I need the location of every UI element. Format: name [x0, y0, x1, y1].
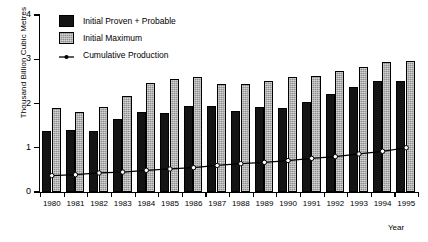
- x-tick: [135, 192, 136, 197]
- x-tick: [371, 192, 372, 197]
- x-tick-label: 1988: [228, 199, 254, 208]
- chart-figure: Thousand Billion Cubic Metres Year 01234…: [0, 0, 428, 242]
- y-axis-title: Thousand Billion Cubic Metres: [19, 0, 28, 138]
- swatch-dark-icon: [59, 15, 74, 27]
- y-tick: [34, 147, 39, 148]
- x-tick-label: 1985: [157, 199, 183, 208]
- x-tick: [394, 192, 395, 197]
- line-data-point: [120, 170, 124, 174]
- x-tick: [111, 192, 112, 197]
- x-axis-title: Year: [388, 223, 404, 232]
- line-data-point: [286, 158, 290, 162]
- legend-label: Initial Proven + Probable: [83, 16, 176, 26]
- y-tick: [34, 59, 39, 60]
- x-tick-label: 1990: [275, 199, 301, 208]
- y-tick-label: 4: [17, 9, 31, 19]
- x-tick-label: 1994: [370, 199, 396, 208]
- line-data-point: [309, 156, 313, 160]
- x-tick-label: 1982: [86, 199, 112, 208]
- line-data-point: [50, 173, 54, 177]
- line-data-point: [239, 161, 243, 165]
- x-tick: [253, 192, 254, 197]
- line-data-point: [144, 168, 148, 172]
- x-tick-label: 1986: [181, 199, 207, 208]
- x-tick: [229, 192, 230, 197]
- line-data-point: [215, 163, 219, 167]
- x-tick: [158, 192, 159, 197]
- line-data-point: [73, 173, 77, 177]
- swatch-hatched-icon: [59, 32, 74, 44]
- line-data-point: [380, 149, 384, 153]
- x-tick-label: 1992: [322, 199, 348, 208]
- x-tick: [40, 192, 41, 197]
- x-tick: [300, 192, 301, 197]
- x-tick-label: 1980: [39, 199, 65, 208]
- legend-label: Cumulative Production: [83, 50, 169, 60]
- line-data-point: [404, 146, 408, 150]
- line-data-point: [262, 160, 266, 164]
- x-tick: [347, 192, 348, 197]
- line-data-point: [191, 165, 195, 169]
- legend-item-initial-proven-probable: Initial Proven + Probable: [59, 12, 176, 29]
- x-tick: [418, 192, 419, 197]
- y-tick-label: 1: [17, 142, 31, 152]
- x-tick-label: 1981: [62, 199, 88, 208]
- legend-item-initial-maximum: Initial Maximum: [59, 29, 176, 46]
- x-tick-label: 1984: [133, 199, 159, 208]
- x-tick-label: 1993: [346, 199, 372, 208]
- y-tick-label: 0: [17, 186, 31, 196]
- line-data-point: [333, 154, 337, 158]
- line-data-point: [97, 171, 101, 175]
- y-tick-label: 3: [17, 53, 31, 63]
- y-tick: [34, 14, 39, 15]
- y-tick: [34, 191, 39, 192]
- line-data-point: [357, 152, 361, 156]
- x-tick: [324, 192, 325, 197]
- legend-item-cumulative-production: Cumulative Production: [59, 46, 176, 63]
- chart-legend: Initial Proven + Probable Initial Maximu…: [59, 12, 176, 63]
- x-tick: [276, 192, 277, 197]
- x-tick-label: 1989: [251, 199, 277, 208]
- y-tick-label: 2: [17, 98, 31, 108]
- x-tick: [205, 192, 206, 197]
- x-tick-label: 1983: [110, 199, 136, 208]
- line-marker-icon: [59, 49, 74, 61]
- line-path: [52, 148, 406, 176]
- legend-label: Initial Maximum: [83, 33, 142, 43]
- x-tick: [182, 192, 183, 197]
- x-tick: [87, 192, 88, 197]
- x-tick-label: 1991: [299, 199, 325, 208]
- x-tick-label: 1987: [204, 199, 230, 208]
- y-tick: [34, 103, 39, 104]
- line-data-point: [168, 167, 172, 171]
- x-tick: [64, 192, 65, 197]
- x-tick-label: 1995: [393, 199, 419, 208]
